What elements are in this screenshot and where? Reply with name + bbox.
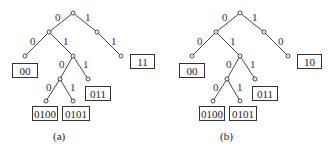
edge-label-root-right: 1 xyxy=(85,12,91,23)
edge-label-r-right: 0 xyxy=(278,36,284,47)
edge-label-l-left: 0 xyxy=(30,36,36,47)
codeword-box-lrll: 0100 xyxy=(32,106,58,121)
codeword-box-lrlr: 0101 xyxy=(62,106,90,121)
edge-label-l-right: 1 xyxy=(63,36,69,47)
codeword-box-lrr: 011 xyxy=(85,86,111,101)
edge-label-root-left: 0 xyxy=(55,12,61,23)
codeword-box-ll: 00 xyxy=(12,63,38,78)
codeword-box-rr: 10 xyxy=(297,54,322,69)
edge-label-l-left: 0 xyxy=(197,36,203,47)
panel-caption-b: (b) xyxy=(220,130,233,142)
edge-label-lr-right: 1 xyxy=(83,59,89,70)
edge-label-root-right: 1 xyxy=(252,12,258,23)
codeword-box-lrr: 011 xyxy=(252,86,278,101)
edge-label-lr-left: 0 xyxy=(59,59,65,70)
panel-caption-a: (a) xyxy=(53,130,65,142)
codeword-box-ll: 00 xyxy=(179,63,205,78)
edge-label-lr-left: 0 xyxy=(226,59,232,70)
edge-label-lrl-left: 0 xyxy=(213,82,219,93)
codeword-box-lrlr: 0101 xyxy=(229,106,257,121)
edge-label-lrl-left: 0 xyxy=(46,82,52,93)
edge-label-lrl-right: 1 xyxy=(70,82,76,93)
tree-panel-b: 0 1 0 1 0 0 1 0 1 00 10 011 0100 0101 (b… xyxy=(167,0,331,150)
edge-label-lr-right: 1 xyxy=(250,59,256,70)
edge-label-lrl-right: 1 xyxy=(237,82,243,93)
codeword-box-rr: 11 xyxy=(130,54,155,69)
edge-label-l-right: 1 xyxy=(230,36,236,47)
edge-label-root-left: 0 xyxy=(222,12,228,23)
edge-label-r-right: 1 xyxy=(111,36,117,47)
tree-panel-a: 0 1 0 1 1 0 1 0 1 00 11 011 0100 0101 (a… xyxy=(0,0,165,150)
codeword-box-lrll: 0100 xyxy=(199,106,225,121)
